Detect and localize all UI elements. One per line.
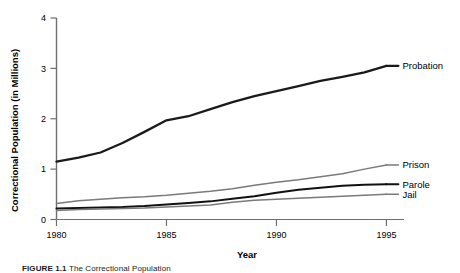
svg-text:0: 0 [41,215,46,225]
svg-text:4: 4 [41,13,46,23]
series-lines [57,66,387,211]
series-label-prison: Prison [402,159,429,170]
y-axis-title: Correctional Population (in Millions) [9,49,20,212]
svg-text:1: 1 [41,164,46,174]
svg-text:3: 3 [41,64,46,74]
svg-text:1995: 1995 [376,230,396,240]
y-axis-ticks: 01234 [41,13,57,225]
line-chart: Correctional Population (in Millions) Ye… [0,0,460,273]
figure-container: Correctional Population (in Millions) Ye… [0,0,460,273]
x-axis-title: Year [237,249,257,260]
svg-text:1990: 1990 [266,230,286,240]
caption-text: The Correctional Population [69,266,171,273]
caption-figure-number: FIGURE 1.1 [22,266,67,273]
figure-caption: FIGURE 1.1 The Correctional Population [0,266,460,273]
svg-text:2: 2 [41,114,46,124]
x-axis-ticks: 1980198519901995 [46,220,396,241]
svg-text:1980: 1980 [46,230,66,240]
series-label-probation: Probation [402,60,443,71]
svg-text:1985: 1985 [156,230,176,240]
series-label-jail: Jail [402,189,416,200]
series-end-labels: ProbationPrisonParoleJail [386,60,443,199]
